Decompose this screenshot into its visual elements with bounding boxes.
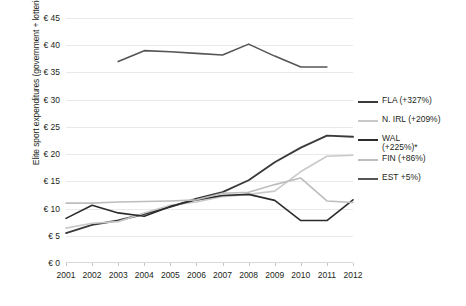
legend-item[interactable]: EST +5%) xyxy=(358,173,466,183)
x-axis-tick-label: 2009 xyxy=(265,270,284,280)
y-axis-tick-label: € 35 xyxy=(43,67,60,77)
x-axis-tick-label: 2003 xyxy=(109,270,128,280)
x-axis-tick-label: 2005 xyxy=(161,270,180,280)
x-axis-tickmark xyxy=(66,263,67,266)
plot-area: € 0€ 5€ 10€ 15€ 20€ 25€ 30€ 35€ 40€ 45 2… xyxy=(66,18,353,263)
legend-swatch-icon xyxy=(358,159,378,161)
series-line xyxy=(118,44,327,67)
y-axis-tick-label: € 25 xyxy=(43,122,60,132)
x-axis-tick-label: 2006 xyxy=(187,270,206,280)
x-axis-tickmark xyxy=(144,263,145,266)
x-axis-tick-label: 2007 xyxy=(213,270,232,280)
y-axis-tick-label: € 15 xyxy=(43,176,60,186)
y-axis-tick-label: € 45 xyxy=(43,13,60,23)
legend-swatch-icon xyxy=(358,178,378,180)
y-axis-tick-label: € 10 xyxy=(43,204,60,214)
x-axis-tickmark xyxy=(92,263,93,266)
y-axis-title: Elite sport expenditures (government + l… xyxy=(31,0,41,177)
legend-item-label: FIN (+86%) xyxy=(382,154,426,164)
x-axis-tick-label: 2010 xyxy=(291,270,310,280)
y-axis-tick-label: € 40 xyxy=(43,40,60,50)
x-axis-tickmark xyxy=(170,263,171,266)
x-axis-tick-label: 2008 xyxy=(239,270,258,280)
y-axis-tick-label: € 5 xyxy=(48,231,60,241)
y-axis-tick-label: € 20 xyxy=(43,149,60,159)
legend-item[interactable]: FLA (+327%) xyxy=(358,96,466,106)
legend-item[interactable]: N. IRL (+209%) xyxy=(358,115,466,125)
x-axis-tick-label: 2001 xyxy=(57,270,76,280)
series-line xyxy=(66,194,353,220)
legend-swatch-icon xyxy=(358,120,378,122)
legend-item-label: EST +5%) xyxy=(382,173,421,183)
x-axis-tickmark xyxy=(249,263,250,266)
legend-swatch-icon xyxy=(358,101,378,103)
x-axis-tick-label: 2002 xyxy=(83,270,102,280)
legend-item-label: WAL (+225%)* xyxy=(382,134,418,154)
x-axis-tickmark xyxy=(196,263,197,266)
series-line xyxy=(66,136,353,233)
x-axis-tick-label: 2004 xyxy=(135,270,154,280)
series-line xyxy=(66,155,353,228)
x-axis-tick-label: 2011 xyxy=(318,270,336,280)
x-axis-tickmark xyxy=(118,263,119,266)
legend-swatch-icon xyxy=(358,139,378,141)
x-axis-tick-label: 2012 xyxy=(344,270,363,280)
elite-sport-expenditure-line-chart: Elite sport expenditures (government + l… xyxy=(0,0,466,306)
legend-item-label: N. IRL (+209%) xyxy=(382,115,441,125)
x-axis-tickmark xyxy=(353,263,354,266)
x-axis-tickmark xyxy=(223,263,224,266)
x-axis-tickmark xyxy=(301,263,302,266)
y-axis-tick-label: € 30 xyxy=(43,95,60,105)
x-axis-tickmark xyxy=(327,263,328,266)
chart-legend: FLA (+327%)N. IRL (+209%)WAL (+225%)*FIN… xyxy=(358,96,466,192)
legend-item[interactable]: FIN (+86%) xyxy=(358,154,466,164)
series-layer xyxy=(66,18,353,263)
legend-item[interactable]: WAL (+225%)* xyxy=(358,134,466,154)
legend-item-label: FLA (+327%) xyxy=(382,96,432,106)
x-axis-tickmark xyxy=(275,263,276,266)
y-axis-tick-label: € 0 xyxy=(48,258,60,268)
